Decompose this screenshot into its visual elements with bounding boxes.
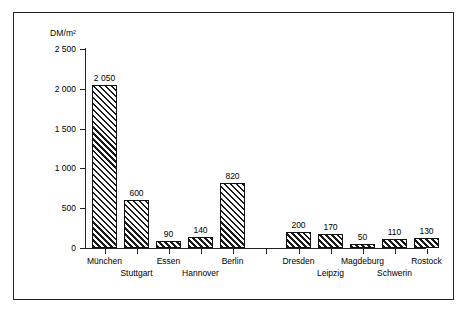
x-axis-tick [266, 249, 267, 254]
y-axis-tick-label: 1 500 [30, 124, 76, 134]
y-axis-tick-label: 2 000 [30, 84, 76, 94]
y-axis-tick [80, 248, 86, 249]
bar [220, 183, 245, 248]
x-axis-category-label: Rostock [387, 256, 467, 266]
chart-figure: DM/m² 05001 0001 5002 0002 500 2 0506009… [0, 0, 474, 315]
y-axis-tick [80, 49, 86, 50]
x-axis-tick [331, 249, 332, 254]
x-axis-tick [233, 249, 234, 254]
bar-value-label: 170 [308, 222, 353, 232]
bar [350, 244, 375, 248]
y-axis-tick [80, 129, 86, 130]
bar [414, 238, 439, 248]
y-axis-tick-label: 500 [30, 203, 76, 213]
x-axis-tick [395, 249, 396, 254]
bar [188, 237, 213, 248]
bar-value-label: 820 [210, 171, 255, 181]
x-axis-tick [105, 249, 106, 254]
bar-value-label: 600 [114, 188, 159, 198]
bar-value-label: 140 [178, 225, 223, 235]
x-axis-category-label: Hannover [161, 268, 241, 278]
y-axis-tick-label: 0 [30, 243, 76, 253]
bar [286, 232, 311, 248]
bar [156, 241, 181, 248]
bar [124, 200, 149, 248]
bar [382, 239, 407, 248]
x-axis-category-label: Schwerin [355, 268, 435, 278]
bar-value-label: 130 [404, 226, 449, 236]
plot-area: DM/m² 05001 0001 5002 0002 500 2 0506009… [0, 0, 474, 315]
x-axis-tick [137, 249, 138, 254]
y-axis-tick [80, 208, 86, 209]
bar [92, 85, 117, 248]
y-axis-tick-label: 1 000 [30, 163, 76, 173]
x-axis-tick [363, 249, 364, 254]
y-axis-unit-label: DM/m² [50, 28, 76, 38]
y-axis-tick-label: 2 500 [30, 44, 76, 54]
y-axis-tick [80, 89, 86, 90]
x-axis-tick [427, 249, 428, 254]
bar-value-label: 2 050 [82, 73, 127, 83]
x-axis-tick [169, 249, 170, 254]
y-axis-tick [80, 168, 86, 169]
x-axis-tick [201, 249, 202, 254]
x-axis-tick [299, 249, 300, 254]
